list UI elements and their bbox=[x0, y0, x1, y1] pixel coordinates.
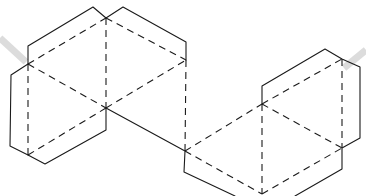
fold-line bbox=[262, 59, 342, 104]
prism-net-diagram bbox=[0, 0, 366, 196]
fold-line bbox=[106, 18, 186, 60]
fold-line bbox=[185, 151, 262, 194]
fold-line bbox=[106, 60, 186, 108]
fold-line bbox=[28, 18, 106, 64]
outline-edge bbox=[10, 64, 28, 155]
outline-edge bbox=[28, 7, 186, 64]
fold-line bbox=[262, 104, 342, 148]
fold-line bbox=[28, 108, 106, 155]
shadow-bands bbox=[0, 38, 366, 68]
outline-edge bbox=[262, 49, 360, 196]
fold-lines bbox=[28, 18, 342, 194]
shadow-band bbox=[0, 38, 26, 62]
fold-line bbox=[262, 148, 342, 194]
outline-edge bbox=[106, 108, 235, 196]
fold-line bbox=[28, 64, 106, 108]
fold-line bbox=[185, 104, 262, 151]
fold-line bbox=[185, 60, 186, 151]
outline-edge bbox=[28, 108, 106, 164]
